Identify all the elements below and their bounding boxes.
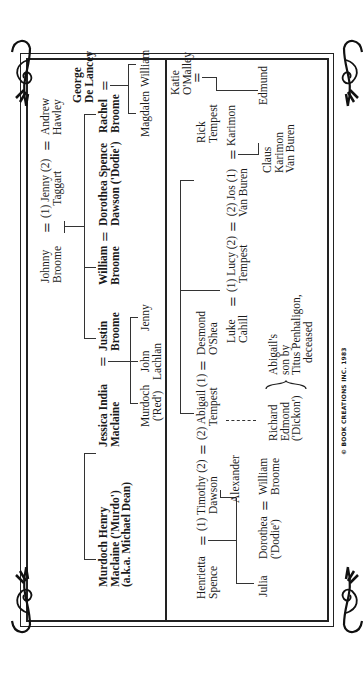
marriage-symbol: =	[196, 360, 209, 371]
connector-line	[64, 221, 65, 233]
family-tree-diagram: Murdoch Henry Maclaine ('Murdo') (a.k.a.…	[0, 0, 364, 673]
note-abigails-son: Abigail's son by Titus Penhaligon, decea…	[268, 294, 314, 375]
brace-icon	[264, 379, 308, 391]
section-divider	[165, 58, 167, 622]
person-dorothea-spence-dawson: Dorothea Spence Dawson ('Dodie')	[98, 141, 121, 226]
person-murdoch-henry-maclaine: Murdoch Henry Maclaine ('Murdo') (a.k.a.…	[98, 482, 133, 587]
person-rick-tempest: Rick Tempest	[196, 104, 219, 143]
copyright-notice: © BOOK CREATIONS INC. 1983	[340, 347, 347, 455]
connector-line	[238, 154, 258, 155]
connector-line	[128, 65, 129, 114]
person-timothy-dawson: (1) Timothy (2) Dawson	[196, 459, 219, 531]
person-andrew-hawley: Andrew Hawley	[40, 98, 63, 135]
marriage-symbol: =	[258, 500, 271, 511]
person-desmond-oshea: Desmond O'Shea	[196, 311, 219, 355]
marriage-symbol: =	[98, 231, 111, 242]
connector-line	[64, 226, 84, 227]
connector-line	[202, 77, 216, 78]
connector-line	[216, 90, 258, 91]
person-karimon: Karimon	[226, 105, 238, 146]
connector-line	[84, 559, 96, 560]
person-lucy-tempest: (1) Lucy (2) Tempest	[226, 236, 249, 292]
person-jos-van-buren: (2) Jos (1) Van Buren	[226, 168, 249, 217]
connector-line	[216, 77, 217, 91]
person-william-broome-bottom: William Broome	[258, 458, 281, 495]
ornament-bottom-right-icon	[316, 30, 364, 110]
connector-line	[130, 403, 138, 404]
connector-line	[128, 113, 136, 114]
connector-line	[84, 267, 96, 268]
person-luke-cahill: Luke Cahill	[226, 315, 249, 343]
marriage-symbol: =	[196, 444, 209, 455]
person-rachel-broome: Rachel Broome	[98, 94, 121, 133]
connector-line	[84, 454, 85, 560]
connector-line	[258, 143, 259, 155]
person-katie-omalley: Katie O'Malley	[170, 52, 193, 95]
person-edmund: Edmund	[258, 66, 270, 105]
marriage-symbol: =	[40, 222, 53, 233]
connector-line	[84, 338, 96, 339]
marriage-symbol: =	[226, 221, 239, 232]
person-jenny-child: Jenny	[140, 304, 152, 331]
connector-line	[130, 317, 138, 318]
connector-line	[110, 85, 128, 86]
connector-line	[180, 413, 194, 414]
connector-line	[236, 583, 254, 584]
connector-line	[130, 361, 138, 362]
connector-line	[208, 540, 236, 541]
person-jenny-taggart: (1) Jenny (2) Taggart	[40, 159, 63, 218]
marriage-symbol: =	[40, 140, 53, 151]
connector-line	[128, 64, 136, 65]
connector-line	[84, 453, 96, 454]
person-justin-broome: Justin Broome	[98, 312, 121, 351]
connector-line	[180, 180, 194, 181]
marriage-symbol: =	[226, 296, 239, 307]
person-william-child: William	[140, 50, 152, 87]
person-george-de-lancey: George De Lancey	[72, 51, 95, 103]
connector-line	[180, 290, 220, 291]
person-richard-edmond-dickon: Richard Edmond ('Dickon')	[268, 395, 303, 441]
person-abigail-tempest: (2) Abigail (1) Tempest	[196, 374, 219, 440]
connector-line	[84, 115, 85, 339]
ornament-top-left-icon	[8, 563, 58, 643]
person-henrietta-spence: Henrietta Spence	[196, 556, 219, 599]
person-julia: Julia	[258, 575, 270, 597]
connector-line	[236, 498, 237, 584]
person-dorothea-dodie: Dorothea ('Dodie')	[258, 516, 281, 559]
connector-line	[108, 361, 130, 362]
person-john-lachlan: John Lachlan	[140, 343, 163, 380]
person-alexander: Alexander	[230, 455, 242, 503]
person-claus-karimon-van-buren: Claus Karimon Van Buren	[262, 124, 297, 173]
ornament-bottom-left-icon	[316, 563, 364, 643]
connector-line	[180, 181, 181, 414]
dashed-connector	[226, 420, 256, 421]
person-johnny-broome: Johnny Broome	[40, 246, 63, 283]
person-murdoch-red: Murdoch ('Red')	[140, 385, 163, 427]
person-jessica-india-maclaine: Jessica India Maclaine	[98, 384, 121, 447]
connector-line	[220, 490, 221, 498]
connector-line	[84, 114, 96, 115]
person-william-broome: William Broome	[98, 246, 121, 285]
person-magdalen: Magdalen	[140, 91, 152, 137]
